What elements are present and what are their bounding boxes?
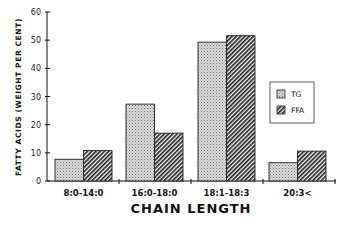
legend-label-tg: TG <box>290 90 302 99</box>
y-tick-label: 0 <box>36 177 41 186</box>
x-category-label: 20:3< <box>283 188 311 198</box>
y-tick-label: 50 <box>31 36 41 45</box>
bar-ffa <box>227 36 256 181</box>
bar-tg <box>198 42 227 181</box>
y-axis: 0102030405060 <box>31 8 50 186</box>
bar-tg <box>269 163 298 181</box>
x-category-label: 16:0-18:0 <box>132 188 178 198</box>
y-tick-label: 30 <box>31 93 41 102</box>
legend-swatch-tg <box>277 90 285 98</box>
bar-tg <box>126 104 155 181</box>
bar-chart: 0102030405060 8:0-14:016:0-18:018:1-18:3… <box>0 0 351 228</box>
legend-swatch-ffa <box>277 106 285 114</box>
y-tick-label: 20 <box>31 121 41 130</box>
y-tick-label: 60 <box>31 8 41 17</box>
y-tick-label: 10 <box>31 149 41 158</box>
category-labels: 8:0-14:016:0-18:018:1-18:320:3< <box>64 188 312 198</box>
bar-ffa <box>84 151 113 181</box>
x-category-label: 8:0-14:0 <box>64 188 104 198</box>
legend-label-ffa: FFA <box>291 106 305 115</box>
bar-ffa <box>155 133 184 181</box>
x-category-label: 18:1-18:3 <box>204 188 250 198</box>
x-axis-title: CHAIN LENGTH <box>131 201 252 216</box>
legend: TG FFA <box>270 82 314 123</box>
bar-ffa <box>298 151 327 181</box>
bar-tg <box>55 159 84 181</box>
y-axis-title: FATTY ACIDS (WEIGHT PER CENT) <box>14 18 23 176</box>
y-tick-label: 40 <box>31 64 41 73</box>
